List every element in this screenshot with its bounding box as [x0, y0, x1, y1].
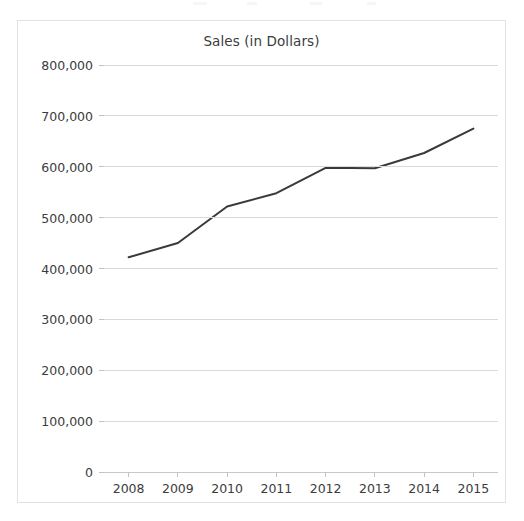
y-gridline — [104, 472, 498, 473]
y-axis-label: 700,000 — [41, 108, 93, 123]
y-axis-tick — [99, 319, 104, 320]
y-axis-tick — [99, 268, 104, 269]
x-axis-label: 2015 — [457, 481, 489, 496]
y-axis-label: 400,000 — [41, 261, 93, 276]
y-gridline — [104, 65, 498, 66]
y-axis-label: 600,000 — [41, 159, 93, 174]
chart-root: Sales (in Dollars) 0100,000200,000300,00… — [0, 0, 524, 521]
y-gridline — [104, 370, 498, 371]
x-axis-label: 2008 — [113, 481, 145, 496]
chart-panel: Sales (in Dollars) 0100,000200,000300,00… — [17, 20, 506, 503]
y-gridline — [104, 421, 498, 422]
y-axis-tick — [99, 166, 104, 167]
y-axis-tick — [99, 472, 104, 473]
x-axis-tick — [276, 472, 277, 477]
chart-title: Sales (in Dollars) — [18, 33, 505, 49]
x-axis-label: 2011 — [260, 481, 292, 496]
y-axis-label: 100,000 — [41, 414, 93, 429]
x-axis-tick — [177, 472, 178, 477]
y-gridline — [104, 166, 498, 167]
y-axis-label: 0 — [85, 465, 93, 480]
x-axis-label: 2014 — [408, 481, 440, 496]
capture-artifacts — [0, 0, 524, 8]
x-axis-label: 2009 — [162, 481, 194, 496]
y-gridline — [104, 217, 498, 218]
x-axis-tick — [473, 472, 474, 477]
y-axis-tick — [99, 217, 104, 218]
y-axis-label: 800,000 — [41, 58, 93, 73]
y-axis-label: 500,000 — [41, 210, 93, 225]
y-axis-tick — [99, 65, 104, 66]
y-gridline — [104, 268, 498, 269]
x-axis-tick — [374, 472, 375, 477]
data-line-sales — [129, 129, 474, 258]
x-axis-label: 2012 — [310, 481, 342, 496]
y-axis-tick — [99, 115, 104, 116]
x-axis-label: 2010 — [211, 481, 243, 496]
plot-area: 0100,000200,000300,000400,000500,000600,… — [104, 65, 498, 472]
y-axis-label: 200,000 — [41, 363, 93, 378]
y-gridline — [104, 319, 498, 320]
y-axis-tick — [99, 421, 104, 422]
y-gridline — [104, 115, 498, 116]
y-axis-tick — [99, 370, 104, 371]
x-axis-label: 2013 — [359, 481, 391, 496]
x-axis-tick — [227, 472, 228, 477]
y-axis-label: 300,000 — [41, 312, 93, 327]
x-axis-tick — [128, 472, 129, 477]
x-axis-tick — [325, 472, 326, 477]
x-axis-tick — [424, 472, 425, 477]
